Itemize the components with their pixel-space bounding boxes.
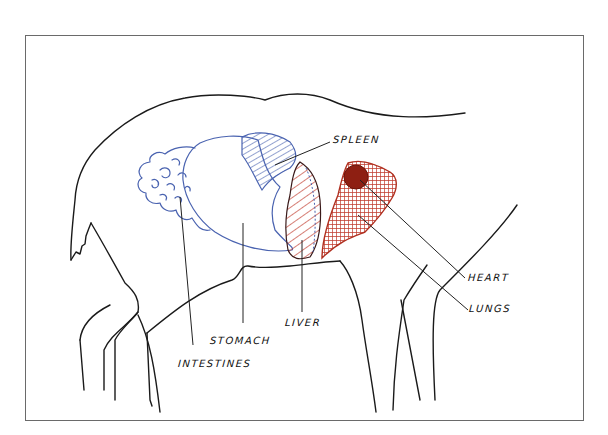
dog-anatomy-diagram (0, 0, 608, 435)
heart-organ (344, 165, 368, 189)
spleen-organ (242, 133, 296, 190)
label-intestines: INTESTINES (178, 358, 252, 369)
label-stomach: STOMACH (210, 335, 272, 346)
label-heart: HEART (468, 272, 510, 283)
label-lungs: LUNGS (469, 303, 512, 314)
liver-organ (286, 162, 321, 259)
label-spleen: SPLEEN (333, 134, 381, 145)
label-liver: LIVER (285, 317, 322, 328)
